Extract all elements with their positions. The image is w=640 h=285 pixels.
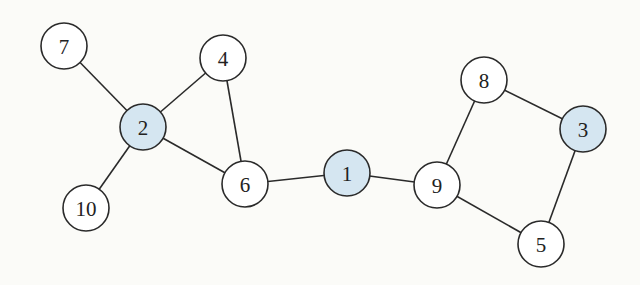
node-label: 5 [536,233,547,257]
node-9: 9 [414,162,460,208]
node-7: 7 [41,23,87,69]
node-label: 10 [76,197,97,221]
node-8: 8 [461,57,507,103]
node-label: 1 [342,162,353,186]
graph-diagram: 12345678910 [0,0,640,285]
node-5: 5 [518,221,564,267]
node-6: 6 [222,161,268,207]
node-1: 1 [324,150,370,196]
node-label: 2 [138,116,149,140]
node-label: 7 [59,35,70,59]
node-label: 9 [432,174,443,198]
node-label: 3 [578,118,589,142]
node-2: 2 [120,104,166,150]
node-label: 6 [240,173,251,197]
graph-svg: 12345678910 [0,0,640,285]
node-10: 10 [63,185,109,231]
nodes-layer: 12345678910 [41,23,606,267]
node-label: 8 [479,69,490,93]
node-label: 4 [218,47,229,71]
node-3: 3 [560,106,606,152]
node-4: 4 [200,35,246,81]
